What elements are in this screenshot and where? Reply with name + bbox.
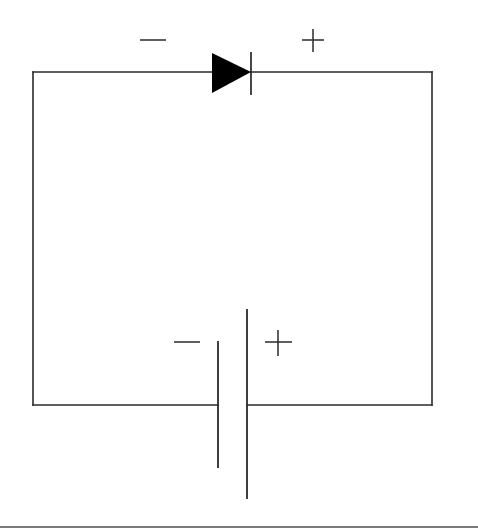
battery-plus-sign-icon [265, 330, 292, 356]
diode-plus-sign-icon [302, 29, 324, 52]
battery-symbol-icon [218, 309, 247, 499]
diode-symbol-icon [212, 52, 251, 95]
diode-triangle [212, 53, 251, 93]
wire-loop [33, 72, 432, 405]
circuit-diagram [0, 0, 478, 528]
